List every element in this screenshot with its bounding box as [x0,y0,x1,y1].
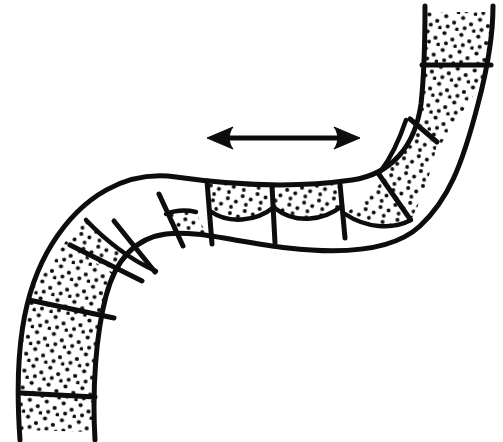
arrow-head-right-icon [334,127,360,149]
septum-7 [272,186,275,243]
arrow-shaft [226,136,341,140]
arrow-head-left-icon [207,127,233,149]
segmented-band-diagram [0,0,503,442]
diagram-canvas [0,0,503,442]
double-headed-arrow [207,127,360,149]
